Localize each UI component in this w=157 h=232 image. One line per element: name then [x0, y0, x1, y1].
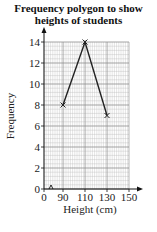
svg-text:130: 130	[99, 191, 116, 203]
svg-text:8: 8	[35, 99, 41, 111]
svg-text:0: 0	[41, 191, 47, 203]
y-axis-label: Frequency	[4, 92, 16, 139]
svg-text:150: 150	[121, 191, 138, 203]
svg-text:4: 4	[35, 141, 41, 153]
chart-plot: 02468101214090110130150 Frequency Height…	[0, 0, 157, 232]
svg-text:2: 2	[35, 162, 41, 174]
svg-text:90: 90	[58, 191, 70, 203]
svg-text:14: 14	[29, 36, 41, 48]
svg-text:10: 10	[29, 78, 41, 90]
svg-text:6: 6	[35, 120, 41, 132]
svg-text:110: 110	[77, 191, 94, 203]
x-axis-label: Height (cm)	[63, 203, 117, 216]
svg-text:0: 0	[35, 183, 41, 195]
grid	[44, 42, 129, 189]
svg-text:12: 12	[29, 57, 40, 69]
tick-labels: 02468101214090110130150	[29, 36, 138, 204]
